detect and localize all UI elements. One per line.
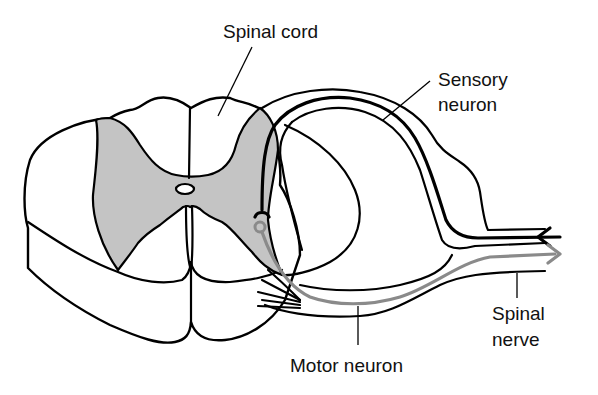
dorsal-root-inner — [292, 108, 545, 249]
label-spinal-nerve-line1: Spinal — [492, 303, 545, 324]
sensory-neuron-path — [262, 97, 560, 238]
label-spinal-nerve-line2: nerve — [492, 329, 540, 350]
label-sensory-neuron-line2: neuron — [438, 94, 497, 115]
motor-neuron-axon — [262, 232, 555, 304]
dorsal-root-outer — [262, 89, 545, 230]
motor-neuron — [255, 222, 560, 304]
label-spinal-cord: Spinal cord — [223, 21, 318, 42]
spinal-nerve — [258, 89, 545, 316]
spinal-reflex-diagram: Spinal cord Sensory neuron Spinal nerve … — [0, 0, 598, 395]
central-canal — [176, 184, 194, 194]
label-motor-neuron: Motor neuron — [290, 355, 403, 376]
dorsal-median-septum — [189, 108, 190, 178]
label-sensory-neuron-line1: Sensory — [438, 69, 508, 90]
sensory-neuron — [255, 97, 560, 246]
